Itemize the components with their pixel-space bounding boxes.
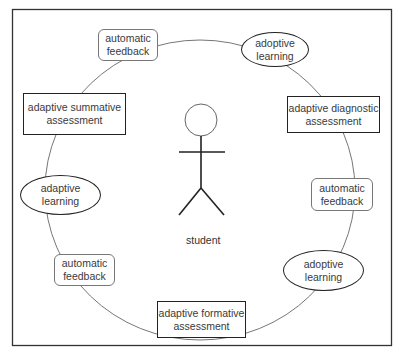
node-label-line: adaptive formative <box>159 307 245 320</box>
student-label: student <box>186 234 220 246</box>
node-automatic-feedback-top: automaticfeedback <box>98 29 158 61</box>
node-label-line: feedback <box>105 45 151 58</box>
node-automatic-feedback-right: automaticfeedback <box>311 178 373 211</box>
node-adoptive-learning-bottom-right: adoptivelearning <box>283 250 364 291</box>
node-label-line: feedback <box>62 270 108 283</box>
node-adoptive-learning-top: adoptivelearning <box>241 32 309 67</box>
node-label-line: learning <box>41 195 81 208</box>
node-label-line: assessment <box>289 115 379 128</box>
node-label-line: automatic <box>62 257 108 270</box>
node-label-line: adoptive <box>304 258 344 271</box>
stick-figure-icon <box>179 104 225 215</box>
node-label-line: adaptive <box>41 182 81 195</box>
node-automatic-feedback-bottom-left: automaticfeedback <box>54 254 115 286</box>
node-label-line: assessment <box>159 320 245 333</box>
node-adaptive-diagnostic-assessment: adaptive diagnosticassessment <box>287 96 380 133</box>
node-label-line: automatic <box>105 32 151 45</box>
node-adaptive-summative-assessment: adaptive summativeassessment <box>23 93 126 135</box>
node-label-line: automatic <box>319 182 365 195</box>
node-label-line: learning <box>255 50 295 63</box>
node-label-line: adaptive summative <box>28 101 121 114</box>
node-label-line: feedback <box>319 195 365 208</box>
node-label-line: assessment <box>28 114 121 127</box>
node-label-line: adoptive <box>255 37 295 50</box>
node-adaptive-formative-assessment: adaptive formativeassessment <box>157 301 246 338</box>
node-label-line: learning <box>304 271 344 284</box>
node-adaptive-learning-left: adaptivelearning <box>20 175 101 215</box>
node-label-line: adaptive diagnostic <box>289 102 379 115</box>
